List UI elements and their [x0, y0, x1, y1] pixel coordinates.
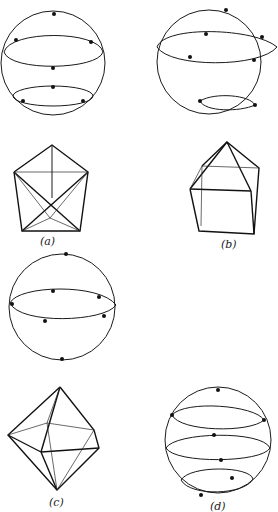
sphere-d-point — [199, 493, 203, 497]
polyhedron-c-edge — [41, 452, 57, 490]
polyhedron-a-edge — [14, 172, 80, 231]
polyhedron-c-edge — [41, 448, 99, 452]
sphere-a — [1, 11, 105, 115]
sphere-a-point — [52, 12, 56, 16]
polyhedron-b-edge — [190, 166, 202, 189]
sphere-a-upper-circle — [4, 36, 103, 67]
sphere-b-point — [253, 103, 257, 107]
polyhedron-a-edge — [22, 218, 50, 231]
sphere-b-point — [204, 32, 208, 36]
polyhedron-c-edge — [57, 430, 94, 490]
polyhedron-b-edge — [202, 166, 259, 168]
sphere-c-equator — [10, 289, 116, 319]
panel-a-label: (a) — [40, 235, 55, 248]
sphere-d-point — [212, 433, 216, 437]
sphere-d-point — [230, 476, 234, 480]
sphere-a-outline — [1, 11, 105, 115]
sphere-c-point — [51, 289, 55, 293]
polyhedron-a-edge — [50, 218, 80, 231]
sphere-d-middle-circle — [166, 435, 270, 459]
polyhedron-c-edge — [47, 423, 94, 430]
sphere-b-point — [198, 99, 202, 103]
sphere-a-point — [89, 40, 93, 44]
sphere-b-point — [224, 8, 228, 12]
polyhedron-a-edge — [22, 172, 88, 231]
sphere-d-lower-circle — [181, 469, 253, 492]
polyhedron-b-edge — [227, 142, 251, 191]
sphere-c-point — [102, 314, 106, 318]
polyhedron-c: (c) — [8, 387, 99, 509]
sphere-c-point — [60, 357, 64, 361]
polyhedron-a: (a) — [14, 145, 88, 248]
polyhedron-c-edge — [41, 387, 60, 452]
sphere-c-point — [10, 302, 14, 306]
panel-c-label: (c) — [49, 496, 64, 509]
panel-d-label: (d) — [210, 500, 226, 512]
sphere-c — [9, 252, 116, 361]
sphere-a-point — [51, 85, 55, 89]
sphere-c-point — [97, 295, 101, 299]
polyhedron-b-edge — [202, 142, 227, 166]
sphere-a-point — [21, 99, 25, 103]
sphere-d: (d) — [165, 387, 271, 512]
sphere-a-point — [51, 66, 55, 70]
sphere-b-point — [188, 55, 192, 59]
sphere-d-point — [219, 458, 223, 462]
sphere-c-outline — [9, 254, 115, 360]
polyhedron-c-edge — [8, 435, 41, 452]
sphere-b-point — [260, 35, 264, 39]
sphere-b-point — [252, 58, 256, 62]
polyhedron-b-outline — [190, 142, 259, 234]
sphere-d-point — [262, 418, 266, 422]
sphere-a-point — [81, 99, 85, 103]
sphere-d-upper-circle — [172, 406, 264, 429]
polyhedron-b-edge — [190, 189, 251, 191]
polyhedron-b-edge — [251, 191, 254, 234]
sphere-d-point — [216, 388, 220, 392]
sphere-b — [157, 8, 277, 114]
polyhedron-c-outline — [8, 387, 99, 490]
sphere-a-point — [14, 38, 18, 42]
polyhedron-b: (b) — [190, 142, 259, 251]
sphere-c-point — [64, 252, 68, 256]
panel-b-label: (b) — [221, 238, 237, 251]
sphere-c-point — [43, 319, 47, 323]
sphere-d-point — [170, 413, 174, 417]
figure-canvas: (a) (b) (c) — [0, 0, 278, 512]
